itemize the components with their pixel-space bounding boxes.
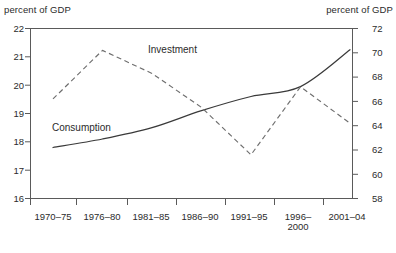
chart-container: percent of GDP percent of GDP 22 21 20 1… bbox=[0, 0, 396, 253]
plot-area bbox=[0, 0, 396, 253]
right-tick-marks bbox=[353, 29, 358, 199]
left-tick-marks bbox=[25, 29, 30, 199]
series-line-consumption bbox=[53, 50, 350, 148]
x-tick-marks bbox=[31, 199, 324, 205]
series-line-investment bbox=[53, 50, 350, 154]
